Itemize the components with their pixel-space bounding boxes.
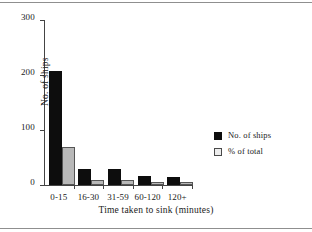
y-axis-tick-label: 100 [21,123,35,132]
bar [108,169,121,186]
legend-swatch-icon [214,132,222,140]
x-axis-tick [192,185,193,189]
y-axis-tick-label: 200 [21,68,35,77]
bar [138,176,151,185]
bars-layer [45,20,193,185]
y-axis-title: No. of ships [40,57,50,106]
x-axis-tick [133,185,134,189]
x-axis-title: Time taken to sink (minutes) [0,205,312,215]
bar [167,177,180,185]
legend-swatch-icon [214,148,222,156]
legend-item: No. of ships [214,129,271,142]
chart-figure: 0100200300 0-1516-3031-5960-120120+ No. … [0,0,312,232]
bar [49,71,62,185]
x-axis-tick [74,185,75,189]
y-axis-tick: 300 [40,20,44,21]
legend-item: % of total [214,145,271,158]
x-axis-tick [162,185,163,189]
y-axis-tick-label: 300 [21,13,35,22]
legend-label: % of total [228,147,263,156]
x-axis-line [44,185,193,186]
x-axis-tick [103,185,104,189]
y-axis-tick-label: 0 [30,178,35,187]
y-axis-tick: 0 [40,185,44,186]
bar [62,147,75,185]
legend-label: No. of ships [228,131,271,140]
page-rule-bottom [0,228,312,229]
x-axis-tick-label: 120+ [156,192,198,202]
chart-legend: No. of ships% of total [214,129,271,161]
bar [78,169,91,185]
plot-area: 0100200300 0-1516-3031-5960-120120+ No. … [44,20,192,185]
page-rule-top [0,2,312,3]
y-axis-tick: 100 [40,130,44,131]
